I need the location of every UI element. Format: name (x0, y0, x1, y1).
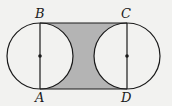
label-b: B (34, 6, 45, 21)
label-a: A (34, 90, 44, 105)
shaded-region (40, 23, 127, 89)
right-center-dot (125, 54, 129, 58)
left-center-dot (38, 54, 42, 58)
label-d: D (120, 90, 132, 105)
geometry-diagram: B C A D (0, 0, 172, 106)
label-c: C (121, 6, 131, 21)
diagram-canvas: B C A D (0, 0, 172, 106)
